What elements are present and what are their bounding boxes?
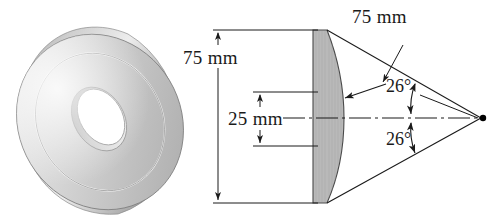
radius-dimension-arrow — [345, 84, 386, 98]
section-profile — [313, 30, 344, 203]
annular-disk-3d — [0, 3, 216, 216]
angle-label-lower: 26° — [386, 129, 411, 150]
angle-arc-upper — [411, 84, 415, 114]
angle-arc-lower — [411, 123, 415, 153]
engineering-figure: 75 mm 25 mm 75 mm 26° 26° — [0, 0, 501, 216]
outer-diameter-label: 75 mm — [183, 47, 238, 69]
inner-diameter-label: 25 mm — [228, 108, 283, 130]
angle-leader-upper — [420, 95, 478, 118]
apex-point — [480, 115, 486, 121]
cone-line-upper — [327, 30, 481, 118]
angle-label-upper: 26° — [386, 76, 411, 97]
radius-label: 75 mm — [352, 6, 407, 28]
